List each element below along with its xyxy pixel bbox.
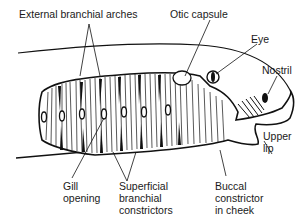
label-buccal-line2: constrictor: [215, 192, 263, 204]
nostril-shape: [262, 93, 268, 103]
label-gill-opening-line2: opening: [63, 192, 100, 204]
otic-capsule-shape: [173, 71, 191, 85]
label-buccal-line3: in cheek: [215, 204, 254, 216]
label-external-branchial-arches: External branchial arches: [19, 8, 137, 20]
label-upper-lip-line2: lip: [263, 142, 274, 154]
label-superficial-line3: constrictors: [119, 204, 173, 216]
label-gill-opening-line1: Gill: [63, 180, 78, 192]
label-superficial-line2: branchial: [119, 192, 162, 204]
label-eye: Eye: [251, 33, 269, 45]
label-nostril: Nostril: [262, 64, 292, 76]
label-buccal-line1: Buccal: [215, 180, 247, 192]
label-upper-lip-line1: Upper: [263, 130, 292, 142]
lamprey-diagram: External branchial arches Otic capsule E…: [0, 0, 308, 222]
label-superficial-line1: Superficial: [119, 180, 168, 192]
label-otic-capsule: Otic capsule: [170, 8, 228, 20]
